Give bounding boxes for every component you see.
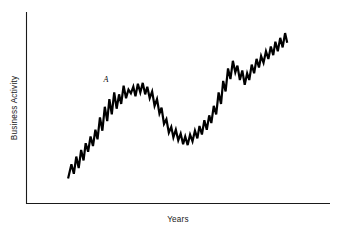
x-axis-title: Years [167, 215, 189, 224]
business-cycle-chart: A Business Activity Years [0, 0, 345, 237]
peak-annotation-a: A [103, 75, 109, 84]
business-activity-line [68, 33, 287, 179]
y-axis-title: Business Activity [10, 75, 19, 140]
chart-figure: A Business Activity Years [0, 0, 345, 237]
